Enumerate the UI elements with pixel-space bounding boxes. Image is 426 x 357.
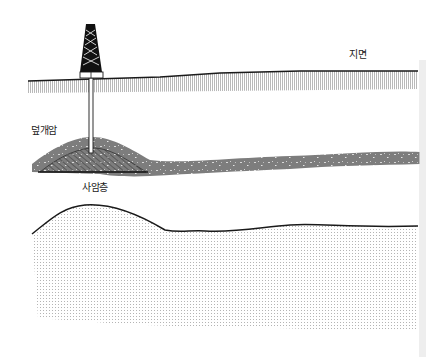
ground-surface-label: 지면 <box>349 46 366 61</box>
oil-derrick-icon <box>80 24 103 78</box>
well-pipe <box>89 78 93 153</box>
sandstone-layer-label: 사암층 <box>82 179 108 194</box>
cap-rock-label: 덮개암 <box>31 122 57 137</box>
page-edge-shadow <box>419 60 426 357</box>
lower-stratum <box>32 205 418 331</box>
